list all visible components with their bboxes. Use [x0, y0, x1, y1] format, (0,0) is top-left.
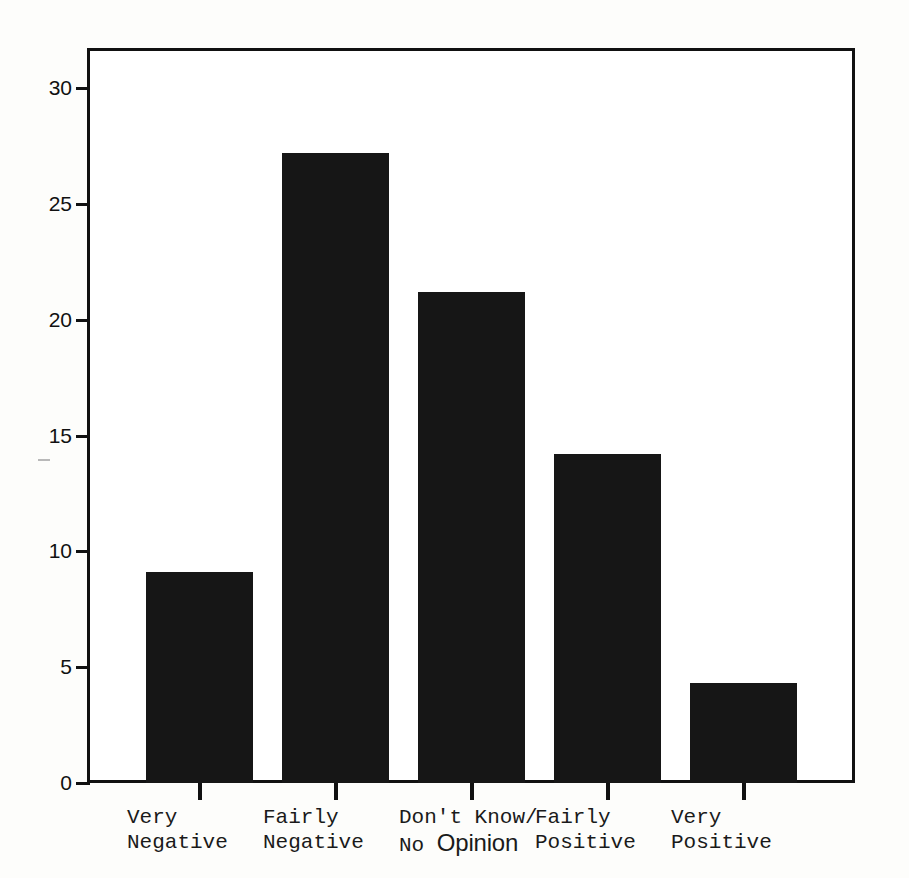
x-axis-tick [470, 783, 474, 800]
y-axis-tick [76, 435, 90, 438]
x-axis-label-line1: Very [127, 806, 177, 829]
y-axis-tick [76, 203, 90, 206]
y-axis-tick-label: 30 [0, 77, 72, 98]
bar [418, 292, 525, 783]
y-axis-tick-label-text: 30 [32, 77, 72, 98]
x-axis-label: Don't Know/No Opinion [399, 805, 538, 858]
x-axis-label: VeryPositive [671, 805, 772, 855]
x-axis-tick [606, 783, 610, 800]
y-axis-tick-label: 15 [0, 425, 72, 446]
x-axis-label: VeryNegative [127, 805, 228, 855]
y-axis-tick-label: 25 [0, 193, 72, 214]
y-axis-tick-label: 0 [0, 772, 72, 793]
y-axis-tick [76, 319, 90, 322]
y-axis-tick [76, 782, 90, 785]
x-axis-label-line2: No Opinion [399, 830, 538, 858]
x-axis-label-line1: Very [671, 806, 721, 829]
y-axis-tick [76, 550, 90, 553]
y-axis-tick-label-text: 20 [32, 309, 72, 330]
y-axis-tick-label-text: 0 [32, 772, 72, 793]
y-axis-tick-label: 5 [0, 656, 72, 677]
bar [282, 153, 389, 783]
x-axis-label-line2: Negative [127, 830, 228, 855]
x-axis-label-line2: Negative [263, 830, 364, 855]
x-axis-label: FairlyPositive [535, 805, 636, 855]
x-axis-label-line2: Positive [671, 830, 772, 855]
bar [690, 683, 797, 783]
plot-area [90, 51, 855, 783]
y-axis-tick [76, 666, 90, 669]
x-axis-label-line2-emphasis: Opinion [437, 829, 518, 856]
x-axis-label-line1: Don't Know/ [399, 806, 538, 829]
bar [554, 454, 661, 783]
bar [146, 572, 253, 783]
chart-page: 051015202530 VeryNegativeFairlyNegativeD… [0, 0, 909, 878]
y-axis-tick-label: 10 [0, 540, 72, 561]
x-axis-tick [742, 783, 746, 800]
x-axis-label-line1: Fairly [263, 806, 339, 829]
x-axis-tick [198, 783, 202, 800]
x-axis-label: FairlyNegative [263, 805, 364, 855]
x-axis-label-line1: Fairly [535, 806, 611, 829]
y-axis-tick-label-text: 15 [32, 425, 72, 446]
scan-artifact-dash [38, 459, 50, 461]
y-axis-tick-label-text: 25 [32, 193, 72, 214]
y-axis-tick-label-text: 10 [32, 540, 72, 561]
y-axis-tick [76, 87, 90, 90]
x-axis-tick [334, 783, 338, 800]
x-axis-label-line2: Positive [535, 830, 636, 855]
y-axis-tick-label-text: 5 [32, 656, 72, 677]
x-axis-label-line2-prefix: No [399, 834, 437, 857]
y-axis-tick-label: 20 [0, 309, 72, 330]
